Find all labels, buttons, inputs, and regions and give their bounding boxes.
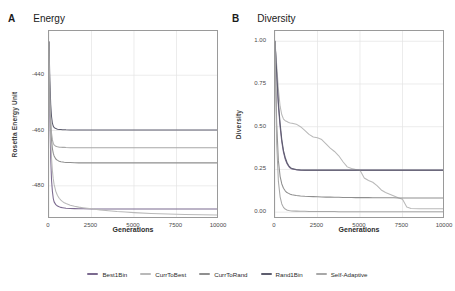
y-tick-label: -440 (32, 71, 44, 77)
panel-b-letter: B (232, 13, 239, 24)
panel-b-y-ticks: 0.000.250.500.751.00 (242, 30, 268, 218)
series-line-rand1bin (49, 42, 218, 130)
panel-a-title: Energy (33, 13, 65, 24)
legend: Best1BinCurrToBestCurrToRandRand1BinSelf… (0, 264, 455, 284)
panel-a-header: A Energy (8, 8, 65, 28)
panel-a: A Energy Rosetta Energy Unit -440-460-48… (8, 8, 220, 260)
panel-b-lines (275, 31, 444, 218)
series-line-currtobest (275, 41, 444, 209)
legend-swatch-icon (316, 273, 327, 275)
y-tick-label: 0.50 (254, 123, 266, 129)
legend-label: Self-Adaptive (331, 271, 368, 278)
series-line-rand1bin (275, 41, 444, 170)
series-line-best1bin (275, 41, 444, 170)
panel-a-plot-area (48, 30, 218, 218)
y-tick-label: -460 (32, 127, 44, 133)
legend-label: CurrToBest (155, 271, 186, 278)
y-tick-label: -480 (32, 182, 44, 188)
panel-b-title: Diversity (257, 13, 295, 24)
series-line-best1bin (49, 42, 218, 209)
legend-label: Rand1Bin (276, 271, 303, 278)
panel-a-y-ticks: -440-460-480 (20, 30, 46, 218)
panel-b-plot-area (274, 30, 444, 218)
panel-a-x-axis-label: Generations (48, 226, 218, 233)
legend-label: CurrToRand (214, 271, 247, 278)
y-tick-label: 0.25 (254, 165, 266, 171)
legend-item-self-adaptive: Self-Adaptive (316, 271, 368, 278)
legend-swatch-icon (261, 273, 272, 275)
y-tick-label: 0.00 (254, 208, 266, 214)
series-line-currtobest (49, 42, 218, 215)
y-tick-label: 0.75 (254, 80, 266, 86)
panel-b: B Diversity Diversity 0.000.250.500.751.… (232, 8, 447, 260)
legend-label: Best1Bin (102, 271, 127, 278)
panel-b-x-axis-label: Generations (274, 226, 444, 233)
legend-item-currtorand: CurrToRand (199, 271, 247, 278)
y-tick-label: 1.00 (254, 37, 266, 43)
panel-a-letter: A (8, 13, 15, 24)
legend-swatch-icon (199, 273, 210, 275)
figure-root: A Energy Rosetta Energy Unit -440-460-48… (0, 0, 455, 291)
series-line-currtorand (49, 42, 218, 163)
legend-item-rand1bin: Rand1Bin (261, 271, 303, 278)
legend-item-currtobest: CurrToBest (140, 271, 186, 278)
legend-item-best1bin: Best1Bin (87, 271, 127, 278)
panel-a-lines (49, 31, 218, 218)
legend-swatch-icon (87, 273, 98, 275)
legend-swatch-icon (140, 273, 151, 275)
panel-b-header: B Diversity (232, 8, 296, 28)
series-line-currtorand (275, 41, 444, 198)
series-line-self-adaptive (49, 42, 218, 148)
